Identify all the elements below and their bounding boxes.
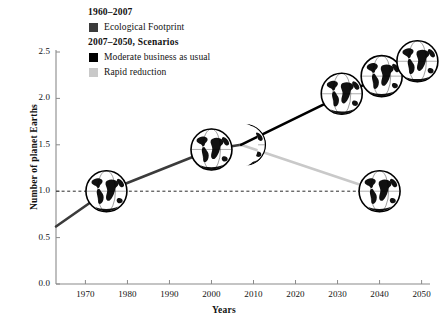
y-axis-tick-label: 2.0: [24, 92, 50, 102]
globe-markers: [86, 41, 438, 212]
globe-marker: [321, 73, 362, 114]
y-axis-tick-label: 0.0: [24, 278, 50, 288]
y-axis-tick-label: 1.5: [24, 139, 50, 149]
y-axis-tick-label: 1.0: [24, 185, 50, 195]
x-axis-tick-label: 2040: [360, 289, 400, 299]
x-axis-ticks: [85, 280, 421, 284]
plot-area: [0, 0, 448, 326]
y-axis-tick-label: 2.5: [24, 46, 50, 56]
chart-container: 1960–2007 Ecological Footprint 2007–2050…: [0, 0, 448, 326]
globe-marker: [361, 56, 402, 97]
x-axis-tick-label: 2010: [234, 289, 274, 299]
globe-marker: [397, 41, 438, 82]
y-axis-tick-label: 0.5: [24, 232, 50, 242]
x-axis-tick-label: 2020: [276, 289, 316, 299]
x-axis-tick-label: 2030: [318, 289, 358, 299]
y-axis-ticks: [56, 52, 60, 284]
x-axis-tick-label: 1990: [149, 289, 189, 299]
globe-marker: [86, 171, 127, 212]
globe-marker: [191, 129, 232, 170]
globe-marker: [359, 171, 400, 212]
x-axis-tick-label: 2050: [402, 289, 442, 299]
x-axis-tick-label: 1980: [107, 289, 147, 299]
x-axis-tick-label: 1970: [65, 289, 105, 299]
x-axis-tick-label: 2000: [191, 289, 231, 299]
